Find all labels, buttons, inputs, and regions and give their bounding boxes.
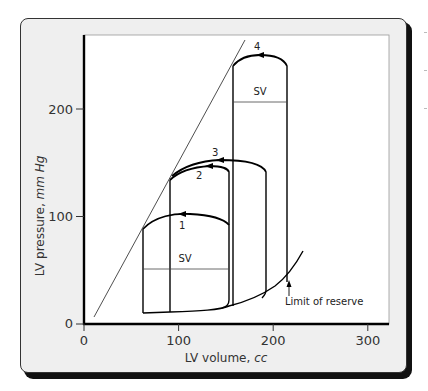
plot-area [84, 35, 389, 324]
y-tick-label: 200 [48, 102, 73, 117]
y-axis-title: LV pressure, mm Hg [33, 155, 47, 276]
x-tick-label: 200 [261, 333, 286, 348]
x-tick-label: 100 [166, 333, 191, 348]
loop-3-label: 3 [212, 147, 218, 158]
loop-1-label: 1 [179, 220, 185, 231]
loop-2-label: 2 [196, 170, 202, 181]
limit-of-reserve-label: Limit of reserve [285, 296, 363, 307]
sv-label-loop-4: SV [253, 86, 266, 97]
loop-4-label: 4 [254, 41, 260, 52]
y-tick-label: 0 [65, 316, 73, 331]
pressure-volume-chart: 0 100 200 0 100 200 300 LV volume, cc LV… [0, 0, 428, 391]
sv-label-loop-1: SV [178, 253, 191, 264]
y-tick-label: 100 [48, 209, 73, 224]
x-tick-label: 0 [80, 333, 88, 348]
x-tick-label: 300 [355, 333, 380, 348]
x-axis-title: LV volume, cc [185, 351, 268, 365]
